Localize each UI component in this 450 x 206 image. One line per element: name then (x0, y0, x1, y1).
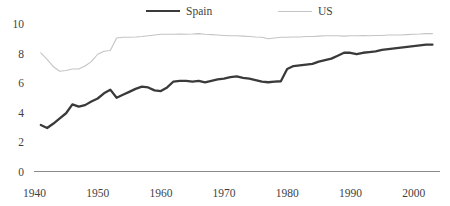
x-tick-label-1990: 1990 (329, 187, 373, 199)
line-chart: Spain US 10 8 6 4 2 0 1940 1950 1960 197… (0, 0, 450, 206)
series-line-spain (41, 45, 433, 128)
x-tick-label-1960: 1960 (139, 187, 183, 199)
x-tick-label-1940: 1940 (13, 187, 57, 199)
y-tick-label-0: 0 (2, 166, 24, 178)
y-tick-label-6: 6 (2, 77, 24, 89)
series-spain-group (41, 45, 433, 128)
chart-plot-area (0, 0, 450, 206)
y-tick-label-4: 4 (2, 107, 24, 119)
x-tick-label-1950: 1950 (76, 187, 120, 199)
y-tick-label-2: 2 (2, 136, 24, 148)
x-tick-label-2000: 2000 (392, 187, 436, 199)
x-tick-label-1980: 1980 (265, 187, 309, 199)
y-tick-label-10: 10 (2, 18, 24, 30)
y-tick-label-8: 8 (2, 48, 24, 60)
x-tick-label-1970: 1970 (202, 187, 246, 199)
